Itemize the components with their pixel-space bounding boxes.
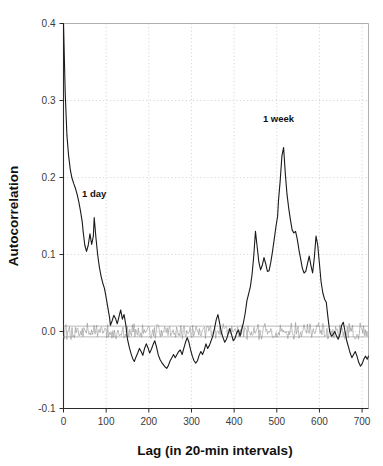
x-tick-label: 0 xyxy=(61,416,67,427)
annotation-one-day: 1 day xyxy=(82,188,107,199)
x-tick-label: 700 xyxy=(354,416,371,427)
annotation-one-week: 1 week xyxy=(263,113,295,124)
x-tick-label: 300 xyxy=(183,416,200,427)
x-tick-label: 500 xyxy=(268,416,285,427)
x-axis-title: Lag (in 20-min intervals) xyxy=(137,443,292,458)
x-tick-label: 100 xyxy=(98,416,115,427)
chart-canvas: 0100200300400500600700 -0.10.00.10.20.30… xyxy=(0,0,383,466)
y-tick-label: -0.1 xyxy=(38,403,56,414)
y-tick-label: 0.3 xyxy=(42,95,56,106)
y-tick-label: 0.0 xyxy=(42,326,56,337)
y-tick-label: 0.4 xyxy=(42,18,56,29)
y-tick-label: 0.1 xyxy=(42,249,56,260)
y-axis-title: Autocorrelation xyxy=(6,166,21,267)
autocorrelation-figure: 0100200300400500600700 -0.10.00.10.20.30… xyxy=(0,0,383,466)
x-tick-label: 600 xyxy=(311,416,328,427)
x-tick-label: 200 xyxy=(140,416,157,427)
x-tick-label: 400 xyxy=(226,416,243,427)
y-tick-label: 0.2 xyxy=(42,172,56,183)
